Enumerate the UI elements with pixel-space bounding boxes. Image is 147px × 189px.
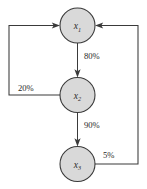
edge-x3-to-x1-path [95,26,138,165]
node-x1[interactable]: x1 [60,8,95,43]
edge-x1-to-x2 [74,43,80,78]
diagram-canvas: x1 x2 x3 80% 90% 20% 5% [0,0,147,189]
node-x3[interactable]: x3 [60,147,95,182]
edge-x2-to-x3 [74,113,80,147]
edge-label-20-percent: 20% [18,83,34,93]
edge-label-90-percent: 90% [84,120,100,130]
edge-label-5-percent: 5% [103,150,114,160]
node-x2[interactable]: x2 [60,78,95,113]
edge-x3-to-x1 [95,22,138,164]
transition-diagram: x1 x2 x3 80% 90% 20% 5% [0,0,147,189]
edge-x2-to-x1 [9,22,60,95]
edge-x2-to-x1-path [9,26,60,96]
edge-label-80-percent: 80% [84,51,100,61]
